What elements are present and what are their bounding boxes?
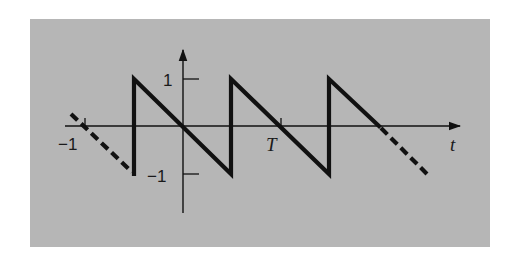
x-label-neg-one: −1 <box>58 135 77 154</box>
y-label-neg-one: −1 <box>147 167 166 186</box>
sawtooth-dashed-right <box>381 128 427 174</box>
x-label-period: T <box>266 134 278 155</box>
y-label-pos-one: 1 <box>163 71 172 90</box>
x-axis-label: t <box>450 134 456 155</box>
sawtooth-chart: 1 −1 −1 T t <box>0 0 514 262</box>
sawtooth-dashed-left <box>71 114 132 172</box>
